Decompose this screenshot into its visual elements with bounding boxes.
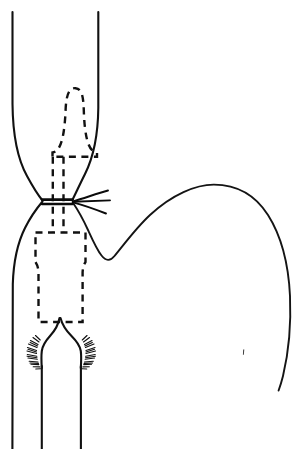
esophageal-stricture-diagram: Esophageal stricture with balloon dilato… (0, 0, 307, 449)
figure-background (0, 0, 307, 449)
figure-root: Esophageal stricture with balloon dilato… (0, 0, 307, 449)
